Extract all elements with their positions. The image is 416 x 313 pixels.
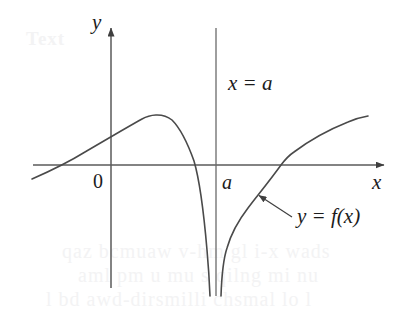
curve-left-branch xyxy=(32,115,210,296)
asymptote-equation-label: x = a xyxy=(228,73,273,94)
graph-plot-area xyxy=(0,0,416,313)
x-axis-label: x xyxy=(372,172,381,193)
y-axis-label: y xyxy=(92,12,101,33)
math-figure: Text qaz bcmuaw v-hm gl i-x wads aml pm … xyxy=(0,0,416,313)
function-callout-arrow xyxy=(259,196,292,218)
origin-label: 0 xyxy=(93,171,103,191)
function-equation-label: y = f(x) xyxy=(297,206,360,227)
a-tick-label: a xyxy=(222,172,232,192)
